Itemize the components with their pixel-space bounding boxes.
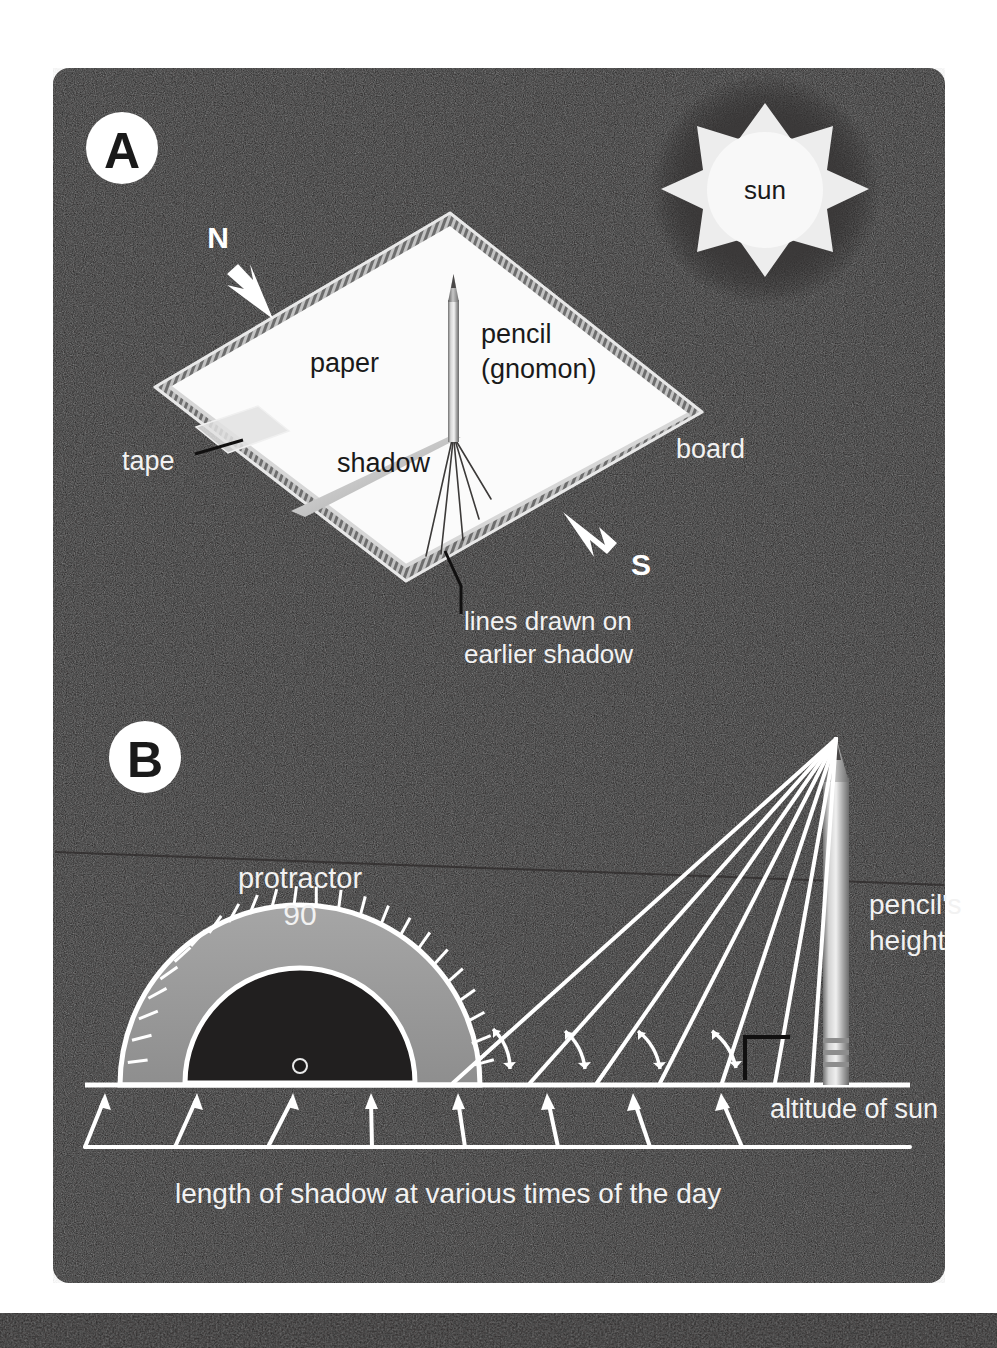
sun-label: sun (744, 175, 786, 205)
altitude-of-sun-label: altitude of sun (770, 1094, 938, 1124)
bottom-dark-band (0, 1313, 997, 1348)
panel-a-badge: A (86, 112, 158, 184)
protractor-center-hole (293, 1059, 307, 1073)
shadow-length-caption: length of shadow at various times of the… (175, 1178, 721, 1209)
shadow-label: shadow (337, 448, 431, 478)
pencil-gnomon-sublabel: (gnomon) (481, 354, 597, 384)
panel-b-badge-label: B (127, 732, 163, 788)
board-label: board (676, 434, 745, 464)
earlier-shadow-caption-line2: earlier shadow (464, 639, 633, 669)
pencil-height-label-line1: pencil's (869, 889, 962, 920)
panel-b-badge: B (109, 721, 181, 793)
protractor-reading-label: 90 (283, 898, 316, 931)
protractor-label: protractor (238, 862, 362, 894)
pencil-gnomon-shape (448, 274, 459, 442)
panel-a-badge-label: A (104, 123, 140, 179)
diagram-canvas: A sun (0, 0, 997, 1348)
pencil-label: pencil (481, 319, 552, 349)
earlier-shadow-caption-line1: lines drawn on (464, 606, 632, 636)
pencil-height-label-line2: height (869, 925, 946, 956)
paper-label: paper (310, 348, 379, 378)
figure-stage: A sun (0, 0, 997, 1348)
tape-label: tape (122, 446, 175, 476)
compass-north-label: N (207, 221, 229, 254)
compass-south-label: S (631, 548, 651, 581)
